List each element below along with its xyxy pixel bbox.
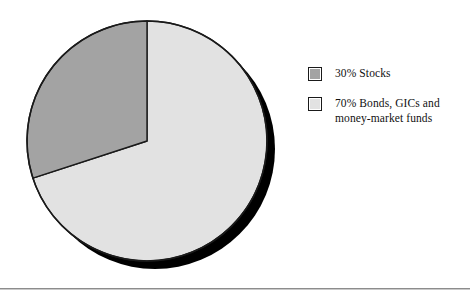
legend-label-stocks: 30% Stocks — [335, 66, 391, 81]
footer-divider — [0, 288, 470, 290]
pie-chart — [16, 10, 296, 282]
legend-swatch-bonds — [308, 97, 322, 111]
chart-legend: 30% Stocks 70% Bonds, GICs and money-mar… — [308, 66, 466, 140]
legend-label-bonds: 70% Bonds, GICs and money-market funds — [335, 96, 440, 125]
legend-item-stocks[interactable]: 30% Stocks — [308, 66, 466, 81]
pie-chart-svg — [16, 10, 296, 282]
legend-swatch-stocks — [308, 67, 322, 81]
figure-container: 30% Stocks 70% Bonds, GICs and money-mar… — [0, 0, 470, 300]
legend-item-bonds[interactable]: 70% Bonds, GICs and money-market funds — [308, 96, 466, 125]
